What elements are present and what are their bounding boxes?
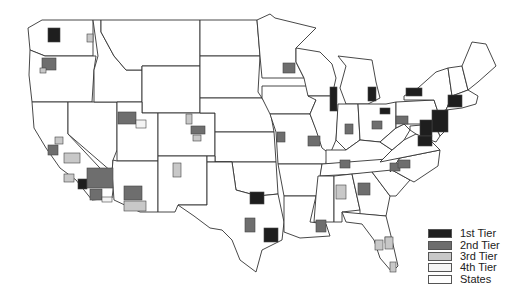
legend-swatch-tier4 <box>428 263 452 272</box>
state-oregon <box>29 50 96 102</box>
patch-san-francisco <box>48 145 58 155</box>
patch-las-vegas <box>102 197 112 202</box>
patch-albuquerque <box>173 163 181 177</box>
patch-houston <box>264 228 278 242</box>
patch-buffalo <box>406 88 422 96</box>
patch-new-york <box>432 110 448 132</box>
legend-swatch-tier2 <box>428 241 452 250</box>
patch-st-louis <box>308 136 320 146</box>
legend-label: 4th Tier <box>460 262 497 273</box>
patch-kansas-city <box>277 132 285 142</box>
patch-raleigh <box>398 160 410 168</box>
patch-detroit <box>368 87 376 101</box>
legend-item-states: States <box>428 274 500 285</box>
patch-fresno <box>64 153 80 163</box>
patch-pittsburgh <box>396 116 408 124</box>
patch-central-coast <box>64 174 74 182</box>
legend-item-tier1: 1st Tier <box>428 228 500 239</box>
legend-label: 2nd Tier <box>460 240 500 251</box>
patch-sacramento <box>55 137 63 144</box>
legend: 1st Tier 2nd Tier 3rd Tier 4th Tier Stat… <box>428 228 500 285</box>
patch-salt-lake-city <box>118 112 136 124</box>
patch-phoenix <box>124 186 142 200</box>
patch-nashville <box>340 160 350 168</box>
state-north-dakota <box>200 20 260 56</box>
patch-colorado-springs <box>193 135 201 141</box>
legend-label: 3rd Tier <box>460 251 497 262</box>
legend-label: 1st Tier <box>460 228 496 239</box>
patch-seattle <box>48 28 60 42</box>
patch-columbus <box>372 121 382 129</box>
patch-new-orleans <box>316 220 326 232</box>
patch-fort-collins <box>186 114 192 124</box>
patch-spokane <box>87 34 93 42</box>
patch-tampa <box>375 240 383 250</box>
patch-atlanta <box>358 183 370 195</box>
state-mississippi <box>314 176 334 222</box>
patch-indianapolis <box>345 124 353 134</box>
state-arkansas <box>278 164 322 196</box>
patch-cleveland <box>380 108 390 114</box>
patch-washington-dc <box>418 136 432 146</box>
state-wyoming <box>142 66 200 113</box>
patch-birmingham <box>336 185 346 199</box>
state-new-mexico <box>158 156 207 212</box>
patch-austin <box>245 218 255 232</box>
patch-salem <box>40 68 46 73</box>
state-south-dakota <box>200 56 262 98</box>
patch-tucson <box>124 201 146 211</box>
patch-denver <box>191 126 205 134</box>
patch-chicago <box>330 87 337 111</box>
legend-swatch-tier1 <box>428 229 452 238</box>
patch-dallas <box>250 192 264 204</box>
patch-san-diego <box>90 189 102 200</box>
patch-inland-empire <box>87 168 113 188</box>
legend-item-tier4: 4th Tier <box>428 262 500 273</box>
patch-minneapolis <box>283 63 295 73</box>
patch-los-angeles <box>78 179 87 189</box>
state-kansas <box>215 132 276 162</box>
patch-provo <box>136 120 146 128</box>
legend-label: States <box>460 274 491 285</box>
legend-swatch-states <box>428 275 452 284</box>
patch-boston <box>448 95 462 107</box>
legend-swatch-tier3 <box>428 252 452 261</box>
patch-miami <box>390 262 396 272</box>
patch-philadelphia <box>420 120 432 136</box>
patch-orlando <box>385 237 393 249</box>
state-washington <box>28 20 93 56</box>
state-maine <box>462 42 496 90</box>
